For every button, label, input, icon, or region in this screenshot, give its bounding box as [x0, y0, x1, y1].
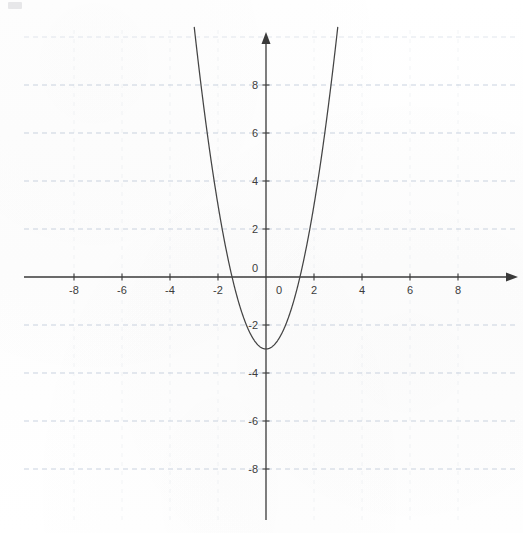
y-tick-label: 4: [252, 175, 258, 187]
chart-figure: -8-6-4-224688642-2-4-6-800: [0, 0, 523, 533]
x-tick-label: -6: [117, 284, 127, 296]
y-tick-label: 6: [252, 127, 258, 139]
y-tick-label: -8: [248, 463, 258, 475]
x-tick-label: 8: [455, 284, 461, 296]
y-tick-label: -6: [248, 415, 258, 427]
x-tick-label: -2: [213, 284, 223, 296]
x-axis-zero-label: 0: [276, 284, 282, 296]
gridlines-group: [24, 30, 519, 520]
x-tick-label: 4: [359, 284, 365, 296]
y-tick-label: 2: [252, 223, 258, 235]
y-tick-label: 8: [252, 79, 258, 91]
y-axis-arrowhead: [262, 32, 271, 44]
x-tick-label: -8: [69, 284, 79, 296]
x-axis-arrowhead: [506, 273, 518, 282]
x-tick-label: -4: [165, 284, 175, 296]
y-tick-label: -2: [248, 319, 258, 331]
x-tick-label: 2: [311, 284, 317, 296]
y-axis-zero-label: 0: [252, 262, 258, 274]
y-tick-label: -4: [248, 367, 258, 379]
coordinate-plane: -8-6-4-224688642-2-4-6-800: [0, 0, 523, 533]
axes-group: [24, 32, 518, 520]
x-tick-label: 6: [407, 284, 413, 296]
